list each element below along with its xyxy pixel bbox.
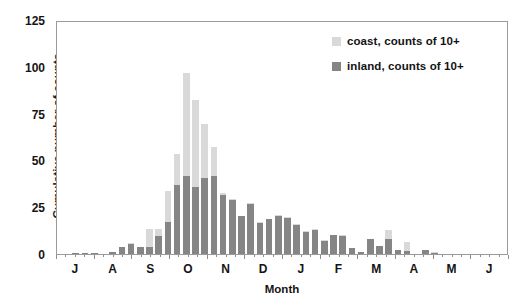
bar-segment-inland [220, 195, 227, 254]
bar-column [292, 22, 301, 254]
bar-segment-inland [137, 247, 144, 254]
legend-swatch-icon [332, 62, 341, 71]
bar-segment-coast [174, 154, 181, 186]
x-axis-tick-mark [141, 255, 142, 257]
legend-item-label: coast, counts of 10+ [347, 35, 460, 47]
bar-stack [183, 22, 190, 254]
x-axis-tick-mark [376, 255, 377, 257]
bar-segment-coast [165, 191, 172, 222]
x-axis-tick-mark [367, 255, 368, 257]
bar-stack [155, 22, 162, 254]
bar-segment-inland [211, 176, 218, 254]
x-axis-tick-mark [310, 255, 311, 257]
bar-column [108, 22, 117, 254]
bar-segment-coast [201, 124, 208, 178]
bar-segment-inland [395, 250, 402, 254]
bar-column [99, 22, 108, 254]
bar-segment-inland [404, 251, 411, 254]
x-axis-tick-mark [339, 255, 340, 257]
bar-stack [220, 22, 227, 254]
x-axis-tick-mark [414, 255, 415, 257]
bar-segment-coast [183, 73, 190, 176]
bar-stack [266, 22, 273, 254]
bar-segment-inland [284, 218, 291, 254]
bar-stack [109, 22, 116, 254]
bar-stack [303, 22, 310, 254]
bar-column [200, 22, 209, 254]
y-axis-tick-label: 25 [32, 201, 45, 215]
bar-column [301, 22, 310, 254]
bar-column [228, 22, 237, 254]
x-axis-tick-mark [489, 255, 490, 257]
bar-stack [284, 22, 291, 254]
x-axis-tick-mark [75, 255, 76, 257]
x-axis-tick-mark [273, 255, 274, 257]
bar-segment-inland [247, 204, 254, 254]
x-axis-tick-mark [404, 255, 405, 257]
x-axis-tick-label: D [259, 262, 268, 276]
bar-segment-coast [385, 230, 392, 239]
legend-item: coast, counts of 10+ [332, 35, 512, 47]
bar-stack [211, 22, 218, 254]
x-axis-tick-mark [329, 255, 330, 257]
x-axis-tick-mark [122, 255, 123, 257]
x-axis-tick-mark [197, 255, 198, 257]
legend-item: inland, counts of 10+ [332, 60, 512, 72]
bar-column [283, 22, 292, 254]
x-axis-tick-mark [461, 255, 462, 257]
bar-stack [63, 22, 70, 254]
x-axis-tick-labels: JASONDJFMAMJ [56, 262, 508, 282]
x-axis-tick-label: M [371, 262, 381, 276]
bar-segment-inland [229, 200, 236, 254]
bar-segment-inland [293, 225, 300, 254]
bar-stack [293, 22, 300, 254]
bar-stack [275, 22, 282, 254]
bar-segment-inland [431, 253, 438, 254]
y-axis-tick-label: 100 [25, 61, 45, 75]
x-axis-tick-marks [56, 255, 508, 260]
x-axis-title: Month [56, 283, 508, 295]
x-axis-tick-mark [386, 255, 387, 257]
x-axis-tick-mark [244, 255, 245, 259]
x-axis-tick-mark [113, 255, 114, 257]
x-axis-tick-mark [282, 255, 283, 259]
bar-segment-inland [82, 253, 89, 254]
bar-column [255, 22, 264, 254]
x-axis-tick-mark [452, 255, 453, 257]
x-axis-tick-mark [320, 255, 321, 259]
bar-column [62, 22, 71, 254]
bar-segment-coast [146, 229, 153, 247]
bar-segment-inland [183, 176, 190, 254]
x-axis-tick-label: O [183, 262, 192, 276]
bar-segment-inland [109, 252, 116, 254]
bar-segment-inland [174, 185, 181, 254]
bar-segment-inland [303, 232, 310, 254]
bar-stack [119, 22, 126, 254]
chart-container: Cumulative number of counts 125100755025… [0, 0, 523, 306]
bar-column [80, 22, 89, 254]
bar-segment-inland [266, 219, 273, 254]
bar-stack [229, 22, 236, 254]
x-axis-tick-mark [216, 255, 217, 257]
x-axis-tick-label: S [146, 262, 154, 276]
x-axis-tick-mark [395, 255, 396, 259]
x-axis-tick-mark [301, 255, 302, 257]
x-axis-tick-mark [480, 255, 481, 257]
x-axis-tick-mark [160, 255, 161, 257]
x-axis-tick-mark [263, 255, 264, 257]
bar-segment-inland [257, 223, 264, 254]
bar-stack [238, 22, 245, 254]
bar-segment-coast [192, 100, 199, 187]
x-axis-tick-mark [499, 255, 500, 257]
bar-segment-inland [349, 248, 356, 254]
bar-segment-coast [404, 242, 411, 251]
x-axis-tick-mark [254, 255, 255, 257]
y-axis-tick-label: 75 [32, 108, 45, 122]
bar-column [71, 22, 80, 254]
bar-stack [321, 22, 328, 254]
bar-column [182, 22, 191, 254]
x-axis-tick-mark [442, 255, 443, 257]
x-axis-tick-mark [470, 255, 471, 259]
x-axis-tick-mark [150, 255, 151, 257]
x-axis-tick-mark [235, 255, 236, 257]
